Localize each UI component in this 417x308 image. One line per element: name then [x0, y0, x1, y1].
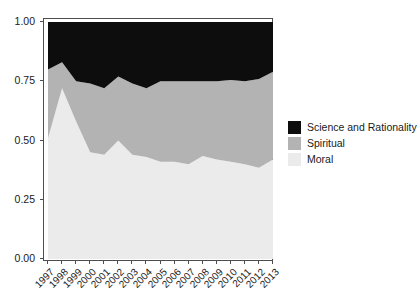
x-tick-mark — [47, 261, 48, 264]
plot-area — [48, 22, 273, 259]
legend-swatch-icon — [288, 121, 301, 134]
x-tick-mark — [188, 261, 189, 264]
x-tick-mark — [202, 261, 203, 264]
legend-label: Science and Rationality — [307, 122, 417, 133]
legend-swatch-icon — [288, 137, 301, 150]
x-tick-mark — [117, 261, 118, 264]
legend-label: Spiritual — [307, 138, 345, 149]
x-tick-mark — [244, 261, 245, 264]
legend-label: Moral — [307, 154, 333, 165]
x-tick-mark — [216, 261, 217, 264]
x-tick-mark — [89, 261, 90, 264]
x-tick-mark — [174, 261, 175, 264]
x-tick-mark — [160, 261, 161, 264]
area-band-science-and-rationality — [48, 22, 273, 88]
x-tick-mark — [258, 261, 259, 264]
y-tick-label: 0.50 — [15, 135, 35, 146]
legend-item[interactable]: Science and Rationality — [288, 120, 417, 134]
y-tick-label: 0.25 — [15, 194, 35, 205]
y-tick-label: 0.75 — [15, 75, 35, 86]
legend-item[interactable]: Moral — [288, 152, 417, 166]
legend-swatch-icon — [288, 153, 301, 166]
x-tick-mark — [145, 261, 146, 264]
x-tick-mark — [75, 261, 76, 264]
x-tick-mark — [131, 261, 132, 264]
legend-item[interactable]: Spiritual — [288, 136, 417, 150]
x-axis: 1997199819992000200120022003200420052006… — [0, 261, 403, 308]
y-tick-label: 1.00 — [15, 16, 35, 27]
x-tick-mark — [230, 261, 231, 264]
x-tick-mark — [61, 261, 62, 264]
x-tick-mark — [103, 261, 104, 264]
area-series-group — [48, 22, 273, 259]
plot-panel — [43, 18, 273, 261]
x-tick-mark — [272, 261, 273, 264]
chart-legend: Science and RationalitySpiritualMoral — [288, 120, 417, 168]
